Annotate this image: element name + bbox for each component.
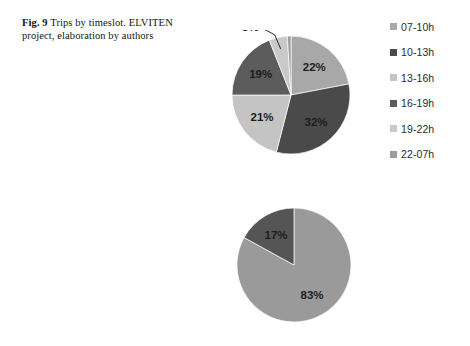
legend-item[interactable]: 19-22h [390,116,434,142]
figure-9-caption: Fig. 9 Trips by timeslot. ELVITEN projec… [22,16,202,42]
pie-slice-label: 32% [304,116,327,128]
legend-swatch-icon [390,74,397,81]
pie-slice-label: 83% [300,289,323,301]
legend-item[interactable]: 16-19h [390,91,434,117]
pie-slice-label: 19% [249,68,272,80]
legend-swatch-icon [390,151,397,158]
figure-9: Fig. 9 Trips by timeslot. ELVITEN projec… [0,0,470,180]
legend-item[interactable]: 22-07h [390,142,434,168]
legend-swatch-icon [390,100,397,107]
pie-chart-timeslot: 22%32%21%19%5%1% [228,30,368,175]
figure-page: Fig. 9 Trips by timeslot. ELVITEN projec… [0,0,470,346]
pie-chart-weekday-svg: 83%17% [232,204,362,329]
legend-item-label: 10-13h [401,46,434,58]
pie-slice-label: 22% [303,61,326,73]
legend-item-label: 22-07h [401,148,434,160]
legend-item[interactable]: 07-10h [390,14,434,40]
pie-chart-timeslot-svg: 22%32%21%19%5%1% [228,30,368,175]
pie-slice-label: 17% [264,229,287,241]
legend-item[interactable]: 13-16h [390,65,434,91]
figure-9-label: Fig. 9 [22,17,48,28]
pie-slice-label-outside: 5% [242,30,259,33]
pie-slice-label: 21% [251,111,274,123]
legend-swatch-icon [390,125,397,132]
legend-timeslot: 07-10h10-13h13-16h16-19h19-22h22-07h [390,14,434,167]
legend-item-label: 13-16h [401,72,434,84]
legend-item-label: 19-22h [401,123,434,135]
figure-10: Fig. 10 Trips by day of the week. ELVITE… [0,180,470,346]
pie-chart-weekday: 83%17% [232,204,362,329]
legend-swatch-icon [390,49,397,56]
legend-item-label: 16-19h [401,97,434,109]
legend-item-label: 07-10h [401,21,434,33]
legend-swatch-icon [390,23,397,30]
legend-item[interactable]: 10-13h [390,40,434,66]
